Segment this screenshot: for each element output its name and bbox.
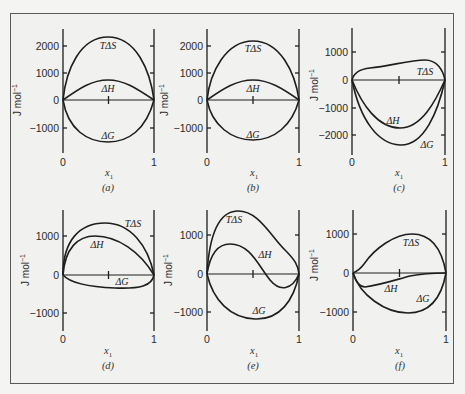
- label-TdS: TΔS: [226, 214, 242, 225]
- y-tick: 0: [197, 94, 203, 106]
- panel-label: (e): [247, 360, 259, 372]
- y-axis-label: J mol−1: [11, 84, 23, 116]
- panel-f: [353, 210, 446, 331]
- label-TdS: TΔS: [245, 43, 261, 54]
- y-tick: 0: [197, 268, 203, 280]
- panel-d-labels: 1000 0 −1000 J mol−1 0 1 x1 (d) TΔS ΔH Δ…: [19, 218, 157, 372]
- curve-TdS: [207, 211, 299, 274]
- label-TdS: TΔS: [100, 40, 116, 51]
- y-tick: −1000: [174, 306, 204, 318]
- x-tick: 1: [151, 333, 157, 345]
- y-axis-label: J mol−1: [19, 254, 31, 286]
- y-tick: 1000: [36, 67, 60, 79]
- y-axis-label: J mol−1: [308, 69, 320, 101]
- x-tick: 0: [350, 333, 356, 345]
- curve-TdS: [63, 223, 154, 275]
- label-TdS: TΔS: [125, 218, 141, 229]
- y-tick: 0: [343, 267, 349, 279]
- y-tick: 1000: [325, 46, 349, 58]
- panel-c: [352, 28, 445, 155]
- label-dG: ΔG: [415, 293, 429, 304]
- x-tick: 0: [204, 156, 210, 168]
- panel-a-labels: 2000 1000 0 −1000 J mol−1 0 1 x1 (a) TΔS…: [11, 40, 157, 194]
- y-tick: 1000: [180, 229, 204, 241]
- y-axis-label: J mol−1: [308, 249, 320, 281]
- y-tick: 0: [342, 74, 348, 86]
- curve-TdS: [353, 234, 446, 273]
- y-axis-label: J mol−1: [158, 84, 170, 116]
- y-tick: −1000: [30, 307, 60, 319]
- label-dH: ΔH: [100, 83, 115, 94]
- label-TdS: TΔS: [403, 237, 419, 248]
- curve-dG: [352, 80, 445, 145]
- label-dG: ΔG: [251, 305, 265, 316]
- label-TdS: TΔS: [417, 66, 433, 77]
- y-tick: −1000: [174, 122, 204, 134]
- y-tick: 1000: [36, 230, 60, 242]
- y-tick: 1000: [180, 67, 204, 79]
- y-tick: 2000: [180, 40, 204, 52]
- y-tick: −2000: [319, 129, 349, 141]
- x-tick: 1: [151, 156, 157, 168]
- x-axis-label: x1: [394, 167, 404, 181]
- label-dH: ΔH: [245, 83, 260, 94]
- label-dG: ΔG: [419, 139, 433, 150]
- label-dH: ΔH: [383, 283, 398, 294]
- label-dH: ΔH: [89, 239, 104, 250]
- label-dG: ΔG: [100, 130, 114, 141]
- label-dH: ΔH: [257, 249, 272, 260]
- label-dG: ΔG: [114, 276, 128, 287]
- x-axis-label: x1: [394, 345, 404, 359]
- y-tick: 0: [53, 94, 59, 106]
- panel-e-labels: 1000 0 −1000 J mol−1 0 1 x1 (e) TΔS ΔH Δ…: [162, 214, 302, 372]
- x-tick: 0: [349, 156, 355, 168]
- x-tick: 0: [204, 333, 210, 345]
- label-dG: ΔG: [245, 129, 259, 140]
- label-dH: ΔH: [385, 115, 400, 126]
- panel-label: (f): [395, 360, 405, 372]
- x-tick: 0: [60, 333, 66, 345]
- x-tick: 1: [296, 156, 302, 168]
- x-tick: 1: [443, 333, 449, 345]
- y-tick: −1000: [30, 122, 60, 134]
- y-tick: 0: [53, 269, 59, 281]
- panel-b-labels: 2000 1000 0 −1000 J mol−1 0 1 x1 (b) TΔS…: [158, 40, 302, 194]
- panel-label: (b): [247, 182, 260, 194]
- panel-label: (a): [102, 182, 115, 194]
- x-tick: 1: [296, 333, 302, 345]
- x-tick: 1: [442, 156, 448, 168]
- figure-canvas: 2000 1000 0 −1000 J mol−1 0 1 x1 (a) TΔS…: [0, 0, 465, 394]
- x-tick: 0: [60, 156, 66, 168]
- panel-f-labels: 1000 0 −1000 J mol−1 0 1 x1 (f) TΔS ΔH Δ…: [308, 228, 449, 372]
- y-tick: −1000: [319, 102, 349, 114]
- x-axis-label: x1: [249, 167, 259, 181]
- y-axis-label: J mol−1: [162, 254, 174, 286]
- x-axis-label: x1: [103, 345, 113, 359]
- x-axis-label: x1: [249, 345, 259, 359]
- y-tick: −1000: [320, 306, 350, 318]
- y-tick: 2000: [36, 40, 60, 52]
- panel-label: (d): [102, 360, 115, 372]
- x-axis-label: x1: [104, 167, 114, 181]
- y-tick: 1000: [326, 228, 350, 240]
- panel-label: (c): [393, 182, 405, 194]
